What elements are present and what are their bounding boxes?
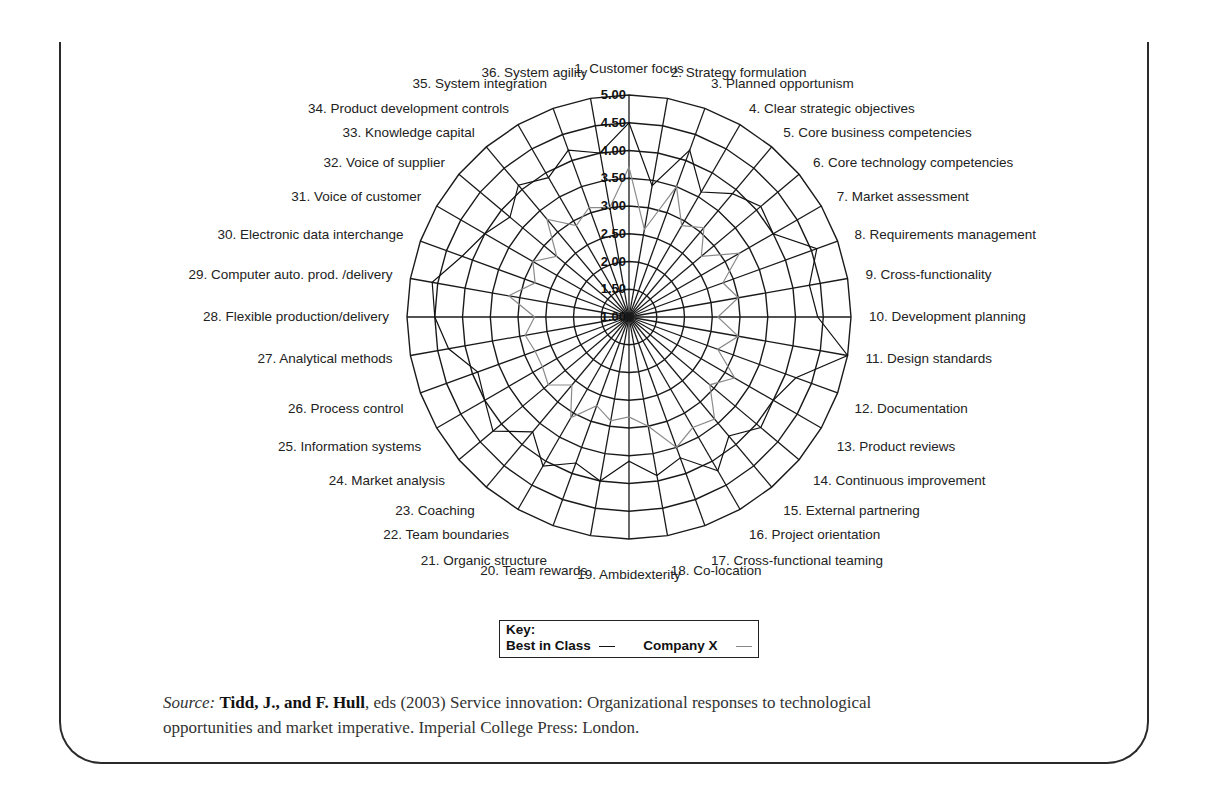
legend-entry-best-in-class: Best in Class: [506, 638, 591, 654]
ring-tick-label: 3.00: [601, 198, 626, 213]
axis-label: 15. External partnering: [783, 503, 920, 518]
legend-entry-company-x: Company X: [643, 638, 717, 654]
axis-label: 29. Computer auto. prod. /delivery: [188, 267, 392, 282]
axis-label: 27. Analytical methods: [258, 351, 393, 366]
ring-tick-label: 2.50: [601, 226, 626, 241]
source-text-line2: opportunities and market imperative. Imp…: [163, 718, 639, 737]
source-text-line1: , eds (2003) Service innovation: Organiz…: [365, 693, 871, 712]
axis-label: 22. Team boundaries: [383, 527, 509, 542]
axis-label: 19. Ambidexterity: [577, 567, 681, 582]
axis-label: 1. Customer focus: [574, 61, 684, 76]
axis-label: 9. Cross-functionality: [865, 267, 991, 282]
ring-tick-label: 5.00: [601, 87, 626, 102]
axis-label: 3. Planned opportunism: [711, 76, 854, 91]
ring-tick-label: 3.50: [601, 170, 626, 185]
axis-label: 12. Documentation: [855, 401, 968, 416]
ring-tick-label: 1.00: [601, 309, 626, 324]
axis-label: 24. Market analysis: [329, 473, 446, 488]
axis-label: 36. System agility: [482, 65, 588, 80]
axis-label: 10. Development planning: [869, 309, 1026, 324]
radar-chart: 1.001.502.002.503.003.504.004.505.00 1. …: [0, 0, 1206, 600]
ring-tick-label: 4.00: [601, 143, 626, 158]
axis-label: 33. Knowledge capital: [343, 125, 475, 140]
source-citation: Source: Tidd, J., and F. Hull, eds (2003…: [163, 690, 1063, 740]
legend-swatch-best-in-class: [599, 646, 615, 647]
axis-label: 32. Voice of supplier: [324, 155, 446, 170]
axis-label: 34. Product development controls: [308, 101, 509, 116]
axis-label: 16. Project orientation: [749, 527, 880, 542]
source-authors: Tidd, J., and F. Hull: [220, 693, 366, 712]
legend-swatch-company-x: [736, 646, 752, 647]
axis-label: 8. Requirements management: [855, 227, 1037, 242]
axis-label: 31. Voice of customer: [291, 189, 421, 204]
axis-label: 26. Process control: [288, 401, 404, 416]
legend-title: Key:: [506, 622, 752, 638]
axis-label: 11. Design standards: [865, 351, 992, 366]
axis-label: 6. Core technology competencies: [813, 155, 1014, 170]
axis-label: 30. Electronic data interchange: [217, 227, 403, 242]
radar-grid: [407, 95, 851, 539]
axis-label: 14. Continuous improvement: [813, 473, 986, 488]
ring-tick-label: 4.50: [601, 115, 626, 130]
legend-key: Key: Best in Class Company X: [499, 620, 759, 658]
axis-label: 13. Product reviews: [837, 439, 956, 454]
axis-label: 21. Organic structure: [421, 553, 547, 568]
source-prefix: Source:: [163, 693, 215, 712]
ring-tick-labels: 1.001.502.002.503.003.504.004.505.00: [601, 87, 626, 324]
axis-label: 23. Coaching: [395, 503, 475, 518]
axis-label: 28. Flexible production/delivery: [203, 309, 389, 324]
axis-label: 18. Co-location: [671, 563, 762, 578]
ring-tick-label: 1.50: [601, 281, 626, 296]
axis-label: 25. Information systems: [278, 439, 422, 454]
ring-tick-label: 2.00: [601, 254, 626, 269]
axis-label: 4. Clear strategic objectives: [749, 101, 915, 116]
axis-label: 5. Core business competencies: [783, 125, 972, 140]
axis-label: 7. Market assessment: [837, 189, 969, 204]
